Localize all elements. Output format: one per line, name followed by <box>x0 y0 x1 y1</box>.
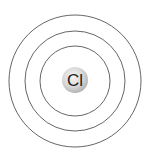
atom-diagram: Cl <box>0 0 150 158</box>
element-symbol: Cl <box>67 71 83 90</box>
